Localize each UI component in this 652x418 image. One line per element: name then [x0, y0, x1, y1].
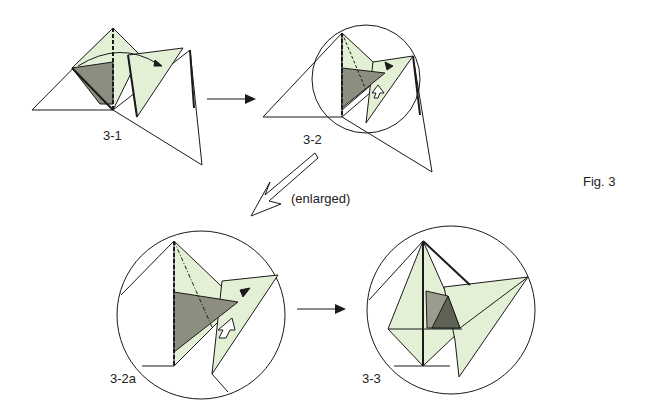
- step-label-3-3: 3-3: [362, 371, 381, 386]
- step-label-3-2a: 3-2a: [110, 371, 136, 386]
- arrow-right-icon: [207, 94, 256, 104]
- step-label-3-2: 3-2: [303, 132, 322, 147]
- step-3-2a-drawing: [117, 231, 285, 399]
- step-3-1-drawing: [32, 28, 202, 165]
- step-3-2-drawing: [263, 25, 432, 172]
- figure-title: Fig. 3: [583, 174, 616, 189]
- origami-diagram: [0, 0, 652, 418]
- step-3-3-drawing: [367, 226, 535, 394]
- enlarged-arrow-icon: [251, 153, 318, 216]
- arrow-right-icon: [297, 304, 346, 314]
- step-label-3-1: 3-1: [103, 128, 122, 143]
- enlarged-annotation: (enlarged): [291, 191, 350, 206]
